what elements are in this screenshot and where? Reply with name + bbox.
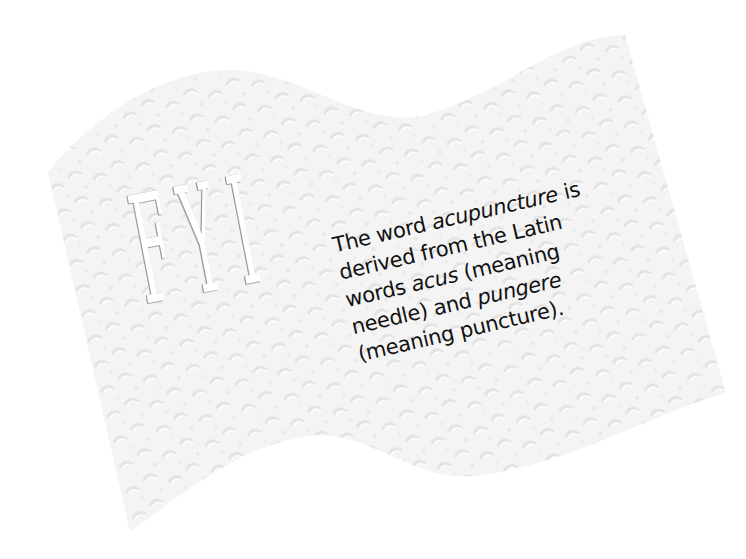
fact-text: is [555,177,582,205]
fyi-card-stage: F Y I The word acupuncture is derived fr… [0,0,746,559]
